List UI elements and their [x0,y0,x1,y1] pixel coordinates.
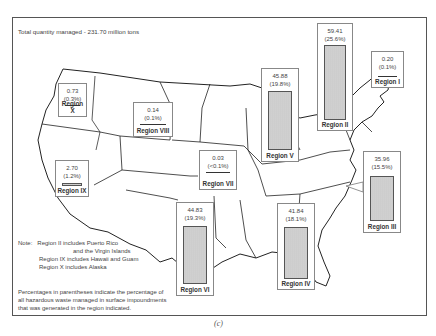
region-i-value: 0.20 [372,55,403,63]
region-ix-value: 2.70 [56,164,88,172]
note-line-3: Region IX includes Hawaii and Guam [18,255,138,263]
region-v-percent: (19.8%) [262,80,298,88]
region-ii-box: 59.41 (25.6%) Region II [317,23,353,131]
region-ii-percent: (25.6%) [318,35,352,43]
region-iv-value: 41.84 [278,207,314,215]
region-iii-percent: (15.5%) [364,163,400,171]
region-iv-label: Region IV [278,280,314,287]
region-viii-box: 0.14 (0.1%) Region VIII [133,102,173,137]
note-block: Note: Region II includes Puerto Rico and… [18,239,138,271]
region-vi-value: 44.83 [177,206,213,214]
region-ii-value: 59.41 [318,27,352,35]
footnote: Percentages in parentheses indicate the … [18,288,198,312]
region-ix-bar [62,183,82,186]
footnote-line-2: all hazardous waste managed in surface i… [18,296,198,304]
region-iii-box: 35.96 (15.5%) Region III [363,151,401,233]
region-ix-box: 2.70 (1.2%) Region IX [55,160,89,197]
region-ix-label: Region IX [56,187,88,194]
region-i-bar [378,76,397,77]
region-viii-value: 0.14 [134,106,172,114]
note-line-4: Region X includes Alaska [18,263,138,271]
region-vii-bar [206,172,230,173]
region-v-box: 45.88 (19.8%) Region V [261,68,299,162]
region-x-box: 0.73 (0.3%) Region X [58,83,87,117]
region-viii-percent: (0.1%) [134,114,172,122]
region-vii-label: Region VII [200,180,236,187]
region-vi-percent: (19.3%) [177,214,213,222]
region-i-label: Region I [372,78,403,85]
footnote-line-3: that was generated in the region indicat… [18,304,198,312]
region-vii-value: 0.03 [200,154,236,162]
region-ii-label: Region II [318,121,352,128]
region-v-bar [268,91,292,150]
note-line-1: Region II includes Puerto Rico [37,240,118,246]
region-iv-bar [284,227,308,279]
region-viii-bar [140,124,166,125]
note-line-2: and the Virgin Islands [18,247,138,255]
region-vii-percent: (<0.1%) [200,162,236,170]
region-viii-label: Region VIII [134,127,172,134]
region-i-percent: (0.1%) [372,63,403,71]
region-iii-value: 35.96 [364,155,400,163]
footnote-line-1: Percentages in parentheses indicate the … [18,288,198,296]
figure-caption: (c) [214,319,223,328]
region-i-box: 0.20 (0.1%) Region I [371,51,404,88]
region-vi-bar [183,226,207,284]
region-v-label: Region V [262,152,298,159]
region-x-label: Region X [59,100,86,114]
region-x-value: 0.73 [59,87,86,95]
region-iv-percent: (18.1%) [278,215,314,223]
region-iii-label: Region III [364,223,400,230]
note-prefix: Note: [18,240,32,246]
region-vi-box: 44.83 (19.3%) Region VI [176,202,214,296]
region-vii-box: 0.03 (<0.1%) Region VII [199,150,237,190]
region-ii-bar [324,45,346,120]
region-iv-box: 41.84 (18.1%) Region IV [277,203,315,290]
region-v-value: 45.88 [262,72,298,80]
region-ix-percent: (1.2%) [56,172,88,180]
region-iii-bar [370,176,394,221]
